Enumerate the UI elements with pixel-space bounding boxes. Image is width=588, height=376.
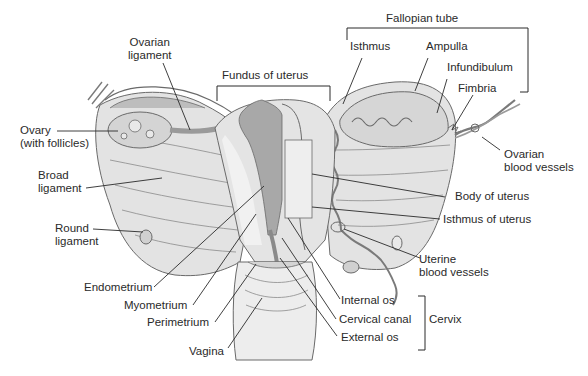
- uterus-anatomy-diagram: Ovarian ligament Fundus of uterus Fallop…: [0, 0, 588, 376]
- label-line: blood vessels: [504, 161, 574, 174]
- fallopian-tube-bracket: [347, 28, 528, 92]
- label-cervix: Cervix: [429, 313, 462, 326]
- vagina-shape: [233, 262, 316, 360]
- label-ovary: Ovary (with follicles): [20, 124, 89, 150]
- label-internal-os: Internal os: [341, 294, 395, 307]
- label-fallopian-tube: Fallopian tube: [386, 12, 458, 25]
- label-fimbria: Fimbria: [458, 82, 496, 95]
- cervix-bracket: [418, 296, 425, 350]
- label-line: Uterine: [419, 253, 489, 266]
- label-cervical-canal: Cervical canal: [339, 313, 411, 326]
- label-line: ligament: [55, 235, 98, 248]
- label-line: Ovarian: [504, 148, 574, 161]
- label-endometrium: Endometrium: [84, 281, 152, 294]
- label-perimetrium: Perimetrium: [147, 316, 209, 329]
- label-infundibulum: Infundibulum: [447, 61, 513, 74]
- label-uterine-blood-vessels: Uterine blood vessels: [419, 253, 489, 279]
- label-vagina: Vagina: [189, 345, 224, 358]
- label-isthmus-of-uterus: Isthmus of uterus: [443, 213, 531, 226]
- label-ampulla: Ampulla: [426, 40, 468, 53]
- label-line: Round: [55, 222, 98, 235]
- anatomy-illustration: [0, 0, 588, 376]
- label-ovarian-ligament: Ovarian ligament: [128, 36, 171, 62]
- label-broad-ligament: Broad ligament: [38, 169, 81, 195]
- label-line: ligament: [128, 49, 171, 62]
- label-line: ligament: [38, 182, 81, 195]
- label-line: Broad: [38, 169, 81, 182]
- label-line: (with follicles): [20, 137, 89, 150]
- label-round-ligament: Round ligament: [55, 222, 98, 248]
- label-line: Ovarian: [128, 36, 171, 49]
- fundus-bracket: [217, 86, 330, 101]
- label-ovarian-blood-vessels: Ovarian blood vessels: [504, 148, 574, 174]
- label-myometrium: Myometrium: [124, 299, 187, 312]
- label-isthmus: Isthmus: [350, 40, 390, 53]
- label-external-os: External os: [341, 331, 399, 344]
- label-body-of-uterus: Body of uterus: [455, 190, 529, 203]
- label-line: blood vessels: [419, 266, 489, 279]
- label-fundus-of-uterus: Fundus of uterus: [222, 69, 308, 82]
- label-line: Ovary: [20, 124, 89, 137]
